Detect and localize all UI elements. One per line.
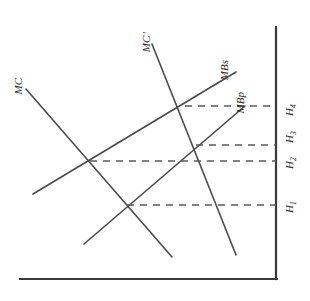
curve-label-mbp: MBp <box>234 92 246 115</box>
axis-label-h2-sub: 2 <box>289 157 298 161</box>
axis-label-h1: H1 <box>283 201 298 214</box>
curve-label-mc-prime: MC′ <box>140 31 152 53</box>
curve-label-mbs: MBs <box>218 60 230 81</box>
curves-group <box>26 44 245 257</box>
curve-mbp <box>84 106 245 244</box>
axis-value-labels-group: H4 H3 H2 H1 <box>283 104 298 214</box>
axis-label-h3: H3 <box>283 131 298 144</box>
axis-label-h4-sub: 4 <box>289 104 298 108</box>
curve-label-mc: MC <box>12 77 24 95</box>
curve-label-mbp-text: MBp <box>234 92 246 115</box>
curve-label-mc-prime-text: MC <box>140 35 152 53</box>
figure-container: MC MC′ MBs MBp H4 H3 H2 <box>0 0 310 301</box>
axis-label-h4: H4 <box>283 104 298 117</box>
curve-label-mbs-text: MBs <box>218 60 230 81</box>
curve-label-mc-prime-mark: ′ <box>141 31 152 34</box>
curve-labels-group: MC MC′ MBs MBp <box>12 31 246 114</box>
axis-label-h3-sub: 3 <box>289 131 298 136</box>
axis-label-h1-sub: 1 <box>289 201 298 205</box>
axis-label-h2: H2 <box>283 157 298 170</box>
curve-label-mc-text: MC <box>12 77 24 95</box>
axes-group <box>20 27 277 279</box>
diagram-canvas: MC MC′ MBs MBp H4 H3 H2 <box>0 0 310 301</box>
